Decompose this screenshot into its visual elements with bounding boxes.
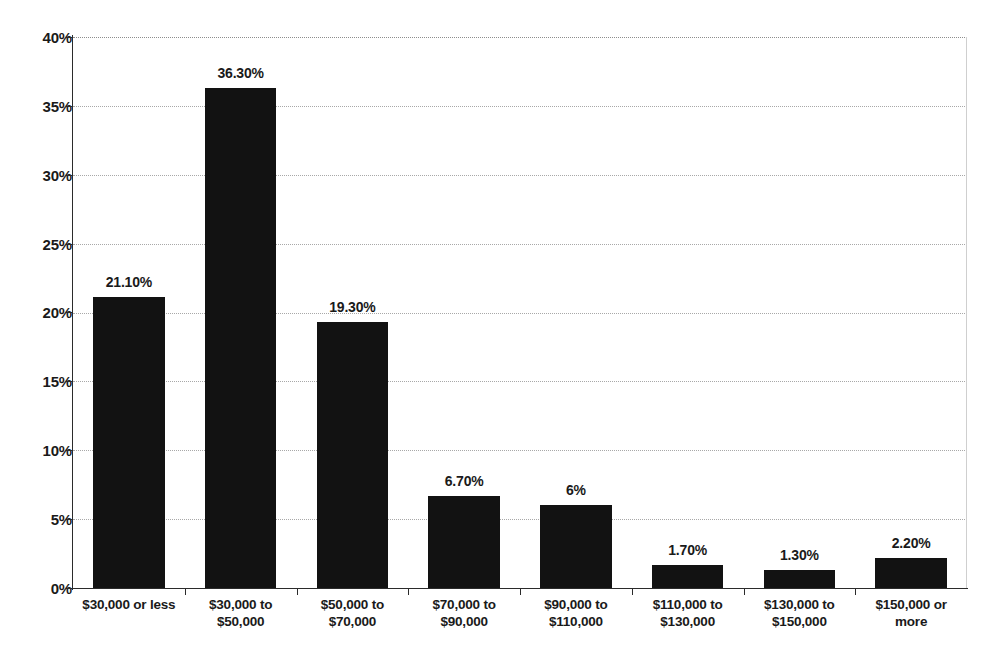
bar-value-5: 1.70% bbox=[632, 543, 744, 557]
x-label-5-line-0: $110,000 to bbox=[632, 596, 744, 613]
x-tick-mark-3 bbox=[408, 588, 409, 595]
x-tick-mark-1 bbox=[185, 588, 186, 595]
x-tick-mark-2 bbox=[297, 588, 298, 595]
x-label-4: $90,000 to $110,000 bbox=[520, 596, 632, 630]
y-tick-label-30: 30% bbox=[16, 168, 72, 183]
y-tick-label-15: 15% bbox=[16, 374, 72, 389]
bar-group-4[interactable]: 6% bbox=[520, 37, 632, 588]
bars-layer: 21.10% 36.30% 19.30% 6.70% 6% 1.70% 1.30… bbox=[73, 37, 967, 588]
x-label-3-line-1: $90,000 bbox=[408, 613, 520, 630]
bar-group-1[interactable]: 36.30% bbox=[185, 37, 297, 588]
bar-2[interactable] bbox=[317, 322, 389, 588]
y-tick-label-25: 25% bbox=[16, 237, 72, 252]
bar-group-0[interactable]: 21.10% bbox=[73, 37, 185, 588]
x-label-5-line-1: $130,000 bbox=[632, 613, 744, 630]
bar-group-7[interactable]: 2.20% bbox=[855, 37, 967, 588]
y-tick-label-10: 10% bbox=[16, 443, 72, 458]
x-label-7-line-1: more bbox=[855, 613, 967, 630]
x-label-5: $110,000 to $130,000 bbox=[632, 596, 744, 630]
bar-group-2[interactable]: 19.30% bbox=[297, 37, 409, 588]
y-tick-label-5: 5% bbox=[16, 512, 72, 527]
x-label-0-line-0: $30,000 or less bbox=[73, 596, 185, 613]
x-label-1-line-1: $50,000 bbox=[185, 613, 297, 630]
y-axis: 40% 35% 30% 25% 20% 15% 10% 5% 0% bbox=[0, 0, 72, 658]
bar-value-3: 6.70% bbox=[408, 474, 520, 488]
bar-chart: 40% 35% 30% 25% 20% 15% 10% 5% 0% 21.10%… bbox=[0, 0, 991, 658]
x-label-4-line-0: $90,000 to bbox=[520, 596, 632, 613]
x-label-2-line-1: $70,000 bbox=[297, 613, 409, 630]
y-tick-label-0: 0% bbox=[16, 581, 72, 596]
x-label-6-line-0: $130,000 to bbox=[744, 596, 856, 613]
x-label-0: $30,000 or less bbox=[73, 596, 185, 613]
bar-group-5[interactable]: 1.70% bbox=[632, 37, 744, 588]
x-label-3: $70,000 to $90,000 bbox=[408, 596, 520, 630]
y-tick-label-35: 35% bbox=[16, 99, 72, 114]
x-label-6: $130,000 to $150,000 bbox=[744, 596, 856, 630]
bar-0[interactable] bbox=[93, 297, 165, 588]
x-tick-mark-6 bbox=[744, 588, 745, 595]
x-axis-labels: $30,000 or less $30,000 to $50,000 $50,0… bbox=[73, 596, 967, 652]
y-tick-label-40: 40% bbox=[16, 30, 72, 45]
x-tick-mark-7 bbox=[855, 588, 856, 595]
x-label-1: $30,000 to $50,000 bbox=[185, 596, 297, 630]
bar-value-4: 6% bbox=[520, 483, 632, 497]
bar-value-6: 1.30% bbox=[744, 548, 856, 562]
x-label-4-line-1: $110,000 bbox=[520, 613, 632, 630]
y-tick-label-20: 20% bbox=[16, 305, 72, 320]
bar-3[interactable] bbox=[428, 496, 500, 588]
bar-group-3[interactable]: 6.70% bbox=[408, 37, 520, 588]
x-tick-mark-4 bbox=[520, 588, 521, 595]
x-tick-mark-5 bbox=[632, 588, 633, 595]
bar-group-6[interactable]: 1.30% bbox=[744, 37, 856, 588]
x-label-7: $150,000 or more bbox=[855, 596, 967, 630]
bar-value-7: 2.20% bbox=[855, 536, 967, 550]
bar-7[interactable] bbox=[875, 558, 947, 588]
x-label-6-line-1: $150,000 bbox=[744, 613, 856, 630]
bar-value-0: 21.10% bbox=[73, 275, 185, 289]
bar-6[interactable] bbox=[764, 570, 836, 588]
bar-1[interactable] bbox=[205, 88, 277, 588]
bar-4[interactable] bbox=[540, 505, 612, 588]
x-label-1-line-0: $30,000 to bbox=[185, 596, 297, 613]
x-label-3-line-0: $70,000 to bbox=[408, 596, 520, 613]
bar-value-1: 36.30% bbox=[185, 66, 297, 80]
x-label-2: $50,000 to $70,000 bbox=[297, 596, 409, 630]
bar-5[interactable] bbox=[652, 565, 724, 588]
x-label-2-line-0: $50,000 to bbox=[297, 596, 409, 613]
bar-value-2: 19.30% bbox=[297, 300, 409, 314]
x-label-7-line-0: $150,000 or bbox=[855, 596, 967, 613]
